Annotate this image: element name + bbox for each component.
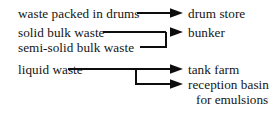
target-label-reception-basin-continuation: for emulsions <box>196 92 268 107</box>
edge-solid-bulk-to-bunker <box>103 27 183 37</box>
edge-liquid-to-tank-farm <box>68 64 183 74</box>
target-label-reception-basin: reception basin <box>188 77 269 92</box>
source-label-solid-bulk-waste: solid bulk waste <box>18 25 105 40</box>
edge-liquid-to-reception-basin <box>136 69 183 89</box>
edge-semisolid-bulk-to-bunker <box>140 32 166 47</box>
target-label-bunker: bunker <box>188 25 225 40</box>
source-label-semi-solid-bulk-waste: semi-solid bulk waste <box>18 40 134 55</box>
source-label-liquid-waste: liquid waste <box>18 62 83 77</box>
edge-drums-to-drum-store <box>137 8 183 18</box>
target-label-tank-farm: tank farm <box>188 62 239 77</box>
source-label-waste-packed-in-drums: waste packed in drums <box>18 6 140 21</box>
waste-routing-diagram: waste packed in drums solid bulk waste s… <box>0 0 279 113</box>
target-label-drum-store: drum store <box>188 6 245 21</box>
